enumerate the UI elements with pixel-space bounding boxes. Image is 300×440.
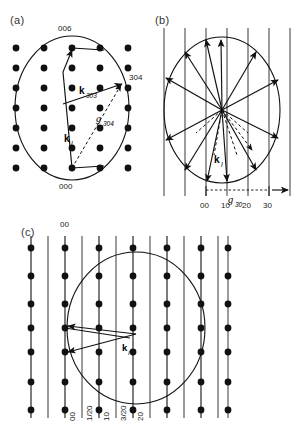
diffracted-beams-b: [166, 40, 278, 181]
panel-c-label: (c): [21, 226, 35, 238]
reciprocal-lattice-dots-a: [13, 45, 132, 172]
panel-a: (a): [0, 0, 152, 210]
panel-b-diagram: k I g 30: [152, 0, 300, 215]
axis-tick-b-0: 00: [200, 201, 209, 210]
panel-a-label: (a): [10, 14, 24, 26]
panel-a-diagram: k 303 k I g 304: [0, 0, 152, 210]
k-incident-sub-a: I: [71, 140, 73, 147]
axis-tick-b-3: 30: [263, 201, 272, 210]
axis-tick-b-2: 20: [242, 201, 251, 210]
g-spacing-marker-b: [206, 186, 288, 196]
g-vector-sub-a: 304: [103, 120, 114, 127]
spot-label-006: 006: [58, 24, 71, 33]
axis-tick-c-0: 00: [68, 412, 77, 421]
panel-b-label: (b): [155, 14, 169, 26]
panel-c: (c): [18, 218, 233, 440]
k-incident-label-a: k: [64, 133, 70, 144]
k-incident-label-b: k: [214, 154, 220, 165]
k-scattered-label-a: k: [79, 85, 85, 96]
k-incident-sub-c: I: [128, 350, 130, 356]
k-scattered-sub-a: 303: [86, 92, 97, 99]
spot-label-304: 304: [129, 73, 142, 82]
axis-tick-c-1: 1/20: [85, 405, 94, 421]
top-index-label-c: 00: [60, 220, 69, 229]
axis-tick-c-3: 3/20: [119, 405, 128, 421]
axis-tick-c-4: 20: [136, 412, 145, 421]
g-vector-label-a: g: [96, 113, 101, 124]
spot-label-000: 000: [59, 182, 72, 191]
axis-tick-c-2: 10: [102, 412, 111, 421]
k-incident-sub-b: I: [221, 161, 223, 168]
axis-tick-b-1: 10: [221, 201, 230, 210]
panel-b: (b): [152, 0, 300, 215]
